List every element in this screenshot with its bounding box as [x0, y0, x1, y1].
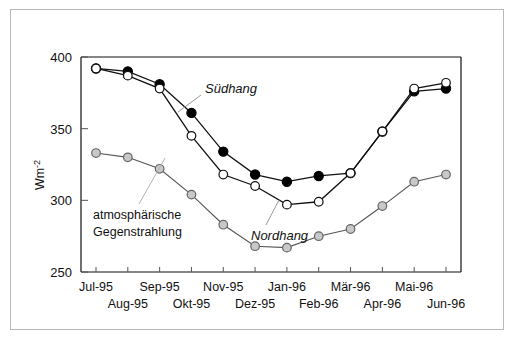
marker-0-Jan-96 — [282, 177, 291, 186]
marker-1-Feb-96 — [314, 197, 323, 206]
y-axis-tick-labels: 250300350400 — [50, 50, 72, 280]
annotation-suedhang: Südhang — [205, 81, 258, 96]
marker-1-Jun-96 — [442, 79, 451, 88]
x-axis-label-Jan-96: Jan-96 — [268, 280, 306, 294]
figure-container: 250300350400 Wm-2 Jul-95Sep-95Nov-95Jan-… — [0, 0, 514, 339]
x-axis-labels-bottom-row: Aug-95Okt-95Dez-95Feb-96Apr-96Jun-96 — [108, 297, 465, 311]
x-axis-label-Mär-96: Mär-96 — [331, 280, 371, 294]
svg-text:Wm-2: Wm-2 — [32, 160, 47, 190]
y-axis-ticks — [81, 57, 88, 272]
y-tick-label-250: 250 — [50, 265, 72, 280]
marker-0-Dez-95 — [250, 170, 259, 179]
y-axis-title: Wm-2 — [32, 160, 47, 190]
x-axis-label-Aug-95: Aug-95 — [108, 297, 148, 311]
marker-2-Okt-95 — [187, 190, 196, 199]
marker-0-Okt-95 — [187, 108, 196, 117]
marker-2-Apr-96 — [378, 202, 387, 211]
x-axis-label-Sep-95: Sep-95 — [139, 280, 179, 294]
y-axis-title-main: Wm — [33, 168, 47, 190]
marker-1-Jul-95 — [92, 64, 101, 73]
x-axis-label-Apr-96: Apr-96 — [364, 297, 402, 311]
annotation-atmospheric-line1: atmosphärische — [93, 208, 181, 222]
nordhang-leader-line — [266, 200, 279, 225]
y-tick-label-300: 300 — [50, 193, 72, 208]
chart-series-markers — [91, 64, 450, 252]
series-line-1 — [96, 68, 446, 204]
marker-2-Nov-95 — [219, 220, 228, 229]
x-axis-label-Mai-96: Mai-96 — [395, 280, 433, 294]
x-axis-label-Jun-96: Jun-96 — [427, 297, 465, 311]
chart-plot-area: 250300350400 Wm-2 Jul-95Sep-95Nov-95Jan-… — [0, 0, 514, 339]
atmospheric-leader-line — [139, 158, 165, 204]
line-chart: 250300350400 Wm-2 Jul-95Sep-95Nov-95Jan-… — [0, 0, 514, 339]
x-axis-ticks — [96, 267, 446, 272]
y-axis-title-superscript: -2 — [32, 160, 42, 168]
marker-2-Mär-96 — [346, 225, 355, 234]
y-tick-label-350: 350 — [50, 122, 72, 137]
marker-0-Nov-95 — [219, 147, 228, 156]
marker-2-Aug-95 — [124, 153, 133, 162]
marker-1-Okt-95 — [187, 132, 196, 141]
annotation-nordhang: Nordhang — [251, 228, 309, 243]
marker-1-Sep-95 — [155, 84, 164, 93]
marker-2-Mai-96 — [410, 177, 419, 186]
marker-1-Nov-95 — [219, 170, 228, 179]
x-axis-label-Dez-95: Dez-95 — [235, 297, 275, 311]
annotation-leader-lines — [139, 95, 279, 225]
marker-1-Jan-96 — [283, 200, 292, 209]
marker-1-Aug-95 — [124, 71, 133, 80]
marker-2-Jan-96 — [283, 243, 292, 252]
marker-2-Dez-95 — [251, 242, 260, 251]
marker-1-Mär-96 — [346, 169, 355, 178]
marker-1-Dez-95 — [251, 182, 260, 191]
marker-0-Feb-96 — [314, 171, 323, 180]
x-axis-label-Feb-96: Feb-96 — [299, 297, 339, 311]
x-axis-labels-top-row: Jul-95Sep-95Nov-95Jan-96Mär-96Mai-96 — [79, 280, 433, 294]
annotation-atmospheric-line2: Gegenstrahlung — [93, 225, 182, 239]
marker-2-Feb-96 — [314, 232, 323, 241]
x-axis-label-Okt-95: Okt-95 — [173, 297, 211, 311]
x-axis-label-Nov-95: Nov-95 — [203, 280, 243, 294]
marker-1-Apr-96 — [378, 127, 387, 136]
marker-2-Jul-95 — [92, 149, 101, 158]
y-tick-label-400: 400 — [50, 50, 72, 65]
x-axis-label-Jul-95: Jul-95 — [79, 280, 113, 294]
marker-2-Jun-96 — [442, 170, 451, 179]
marker-1-Mai-96 — [410, 84, 419, 93]
